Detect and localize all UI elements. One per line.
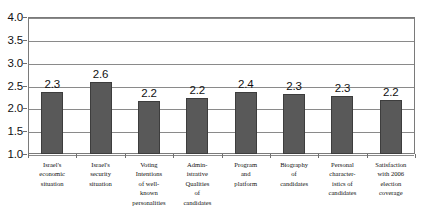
x-axis-label: Israel'seconomicsituation <box>28 160 76 188</box>
y-tick-label-2.0: 2.0 <box>8 102 23 114</box>
x-axis-label-line: Biography <box>270 160 318 169</box>
x-axis-labels: Israel'seconomicsituationIsrael'ssecurit… <box>28 160 415 216</box>
bar[interactable] <box>380 100 402 154</box>
x-axis-label-line: with 2006 <box>367 169 415 178</box>
bar-value-label: 2.2 <box>141 87 156 99</box>
bar-value-label: 2.2 <box>190 84 205 96</box>
bars-layer: 2.32.62.22.22.42.32.32.2 <box>28 17 415 154</box>
x-axis-label: Personalcharacter-istics ofcandidates <box>318 160 366 198</box>
bar-group: 2.4 <box>222 17 270 154</box>
x-axis-label-line: situation <box>76 179 124 188</box>
x-axis-label-line: election <box>367 179 415 188</box>
x-tick-mark <box>318 154 319 158</box>
x-axis-label-line: of <box>173 188 221 197</box>
x-axis-ticks <box>28 154 415 159</box>
x-axis-label: Satisfactionwith 2006electioncoverage <box>367 160 415 198</box>
x-axis-label-line: economic <box>28 169 76 178</box>
bar-group: 2.6 <box>76 17 124 154</box>
bar-value-label: 2.2 <box>383 86 398 98</box>
bar[interactable] <box>331 96 353 154</box>
x-axis-label-line: Satisfaction <box>367 160 415 169</box>
bar-chart: 4.03.53.02.52.01.51.0 2.32.62.22.22.42.3… <box>0 0 423 216</box>
y-tick-label-1.0: 1.0 <box>8 148 23 160</box>
x-axis-label-line: Qualities <box>173 179 221 188</box>
x-axis-label-line: istics of <box>318 179 366 188</box>
x-axis-label-line: Intentions <box>125 169 173 178</box>
bar[interactable] <box>41 92 63 154</box>
bar-group: 2.2 <box>173 17 221 154</box>
x-axis-label-line: coverage <box>367 188 415 197</box>
x-axis-label-line: Admin- <box>173 160 221 169</box>
x-tick-mark <box>28 154 29 158</box>
x-tick-mark <box>125 154 126 158</box>
x-axis-label-line: Voting <box>125 160 173 169</box>
x-tick-mark <box>415 154 416 158</box>
y-tick-label-2.5: 2.5 <box>8 80 23 92</box>
y-tick-mark <box>23 63 27 64</box>
x-tick-mark <box>222 154 223 158</box>
bar[interactable] <box>186 98 208 154</box>
y-tick-mark <box>23 131 27 132</box>
bar[interactable] <box>90 82 112 154</box>
x-axis-label-line: of well- <box>125 179 173 188</box>
bar-group: 2.3 <box>270 17 318 154</box>
bar[interactable] <box>138 101 160 154</box>
x-axis-label-line: platform <box>222 179 270 188</box>
y-tick-label-4.0: 4.0 <box>8 11 23 23</box>
bar-group: 2.2 <box>367 17 415 154</box>
x-tick-mark <box>270 154 271 158</box>
bar-value-label: 2.3 <box>286 80 301 92</box>
x-axis-label-line: candidates <box>270 179 318 188</box>
x-axis-label-line: known <box>125 188 173 197</box>
y-tick-mark <box>23 108 27 109</box>
x-tick-mark <box>367 154 368 158</box>
bar[interactable] <box>283 94 305 154</box>
x-axis-label-line: candidates <box>173 198 221 207</box>
y-tick-label-1.5: 1.5 <box>8 125 23 137</box>
x-axis-label-line: security <box>76 169 124 178</box>
bar-value-label: 2.3 <box>335 82 350 94</box>
y-tick-mark <box>23 86 27 87</box>
y-tick-mark <box>23 40 27 41</box>
y-tick-label-3.5: 3.5 <box>8 34 23 46</box>
x-axis-label-line: istrative <box>173 169 221 178</box>
x-axis-label: Biographyofcandidates <box>270 160 318 188</box>
x-axis-label-line: and <box>222 169 270 178</box>
x-tick-mark <box>173 154 174 158</box>
x-axis-label-line: of <box>270 169 318 178</box>
y-tick-label-3.0: 3.0 <box>8 57 23 69</box>
y-tick-mark <box>23 154 27 155</box>
bar-group: 2.3 <box>318 17 366 154</box>
x-axis-label: Admin-istrativeQualitiesofcandidates <box>173 160 221 207</box>
y-axis: 4.03.53.02.52.01.51.0 <box>0 0 27 216</box>
bar-value-label: 2.6 <box>93 68 108 80</box>
x-axis-label-line: candidates <box>318 188 366 197</box>
x-axis-label-line: Israel's <box>28 160 76 169</box>
y-tick-mark <box>23 17 27 18</box>
x-axis-label-line: character- <box>318 169 366 178</box>
x-axis-label-line: personalities <box>125 198 173 207</box>
x-axis-label-line: Personal <box>318 160 366 169</box>
x-axis-label-line: Israel's <box>76 160 124 169</box>
x-axis-label-line: Program <box>222 160 270 169</box>
bar-value-label: 2.4 <box>238 78 253 90</box>
x-axis-label: Programandplatform <box>222 160 270 188</box>
bar[interactable] <box>235 92 257 154</box>
bar-group: 2.2 <box>125 17 173 154</box>
x-axis-label: Israel'ssecuritysituation <box>76 160 124 188</box>
bar-group: 2.3 <box>28 17 76 154</box>
x-tick-mark <box>76 154 77 158</box>
x-axis-label-line: situation <box>28 179 76 188</box>
x-axis-label: VotingIntentionsof well-knownpersonaliti… <box>125 160 173 207</box>
bar-value-label: 2.3 <box>44 78 59 90</box>
